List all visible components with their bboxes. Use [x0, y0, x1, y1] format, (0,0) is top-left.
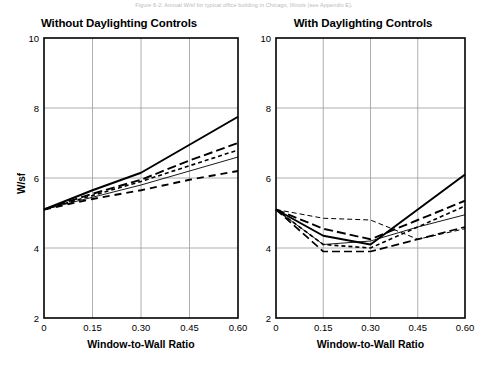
x-axis-label-without: Window-to-Wall Ratio [87, 338, 194, 350]
x-axis-label-with: Window-to-Wall Ratio [317, 338, 424, 350]
plot-area-with: 24681000.150.300.450.60 [250, 0, 488, 366]
x-tick-label: 0.15 [83, 322, 102, 333]
y-tick-label: 8 [266, 103, 271, 114]
y-tick-label: 10 [28, 33, 39, 44]
x-tick-label: 0.45 [409, 322, 428, 333]
y-tick-label: 2 [266, 313, 271, 324]
y-tick-label: 6 [34, 173, 39, 184]
x-tick-label: 0.15 [314, 322, 333, 333]
y-tick-label: 6 [266, 173, 271, 184]
x-tick-label: 0.45 [180, 322, 199, 333]
x-tick-label: 0.30 [361, 322, 380, 333]
plot-area-without: 24681000.150.300.450.60 [0, 0, 250, 366]
x-tick-label: 0.60 [229, 322, 248, 333]
y-tick-label: 8 [34, 103, 39, 114]
chart-panel-with-daylighting: With Daylighting Controls 24681000.150.3… [250, 0, 488, 366]
x-tick-label: 0 [41, 322, 46, 333]
y-tick-label: 4 [34, 243, 39, 254]
chart-panel-without-daylighting: Without Daylighting Controls 24681000.15… [0, 0, 250, 366]
x-tick-label: 0 [273, 322, 278, 333]
y-tick-label: 4 [266, 243, 271, 254]
x-tick-label: 0.30 [132, 322, 151, 333]
y-tick-label: 2 [34, 313, 39, 324]
x-tick-label: 0.60 [456, 322, 475, 333]
y-axis-label-without: W/sf [16, 173, 27, 194]
y-tick-label: 10 [260, 33, 271, 44]
